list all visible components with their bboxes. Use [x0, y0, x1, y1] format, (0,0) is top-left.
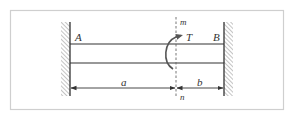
figure-frame	[11, 11, 284, 110]
diagram-canvas: A B T m n a b	[0, 0, 297, 115]
torque-arrow-icon	[166, 36, 181, 70]
label-section-m: m	[180, 17, 187, 27]
label-section-n: n	[180, 92, 185, 102]
label-end-a: A	[74, 31, 82, 43]
label-dim-a: a	[121, 76, 127, 88]
left-wall-hatch	[61, 22, 70, 96]
right-wall-hatch	[224, 22, 233, 96]
label-torque-t: T	[186, 31, 193, 43]
label-end-b: B	[213, 31, 220, 43]
label-dim-b: b	[197, 76, 203, 88]
shaft	[70, 44, 224, 63]
left-fixed-support	[61, 22, 70, 96]
right-fixed-support	[224, 22, 233, 96]
